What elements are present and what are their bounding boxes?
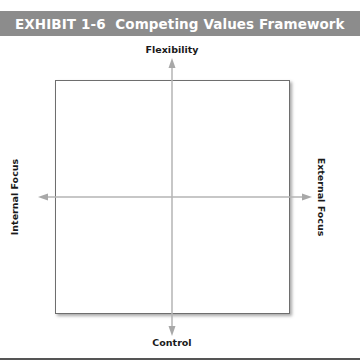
axis-label-control: Control: [152, 337, 191, 348]
bottom-divider: [0, 358, 360, 360]
arrow-right-icon: [302, 194, 312, 201]
axis-label-flexibility: Flexibility: [146, 44, 199, 55]
axis-label-external-focus: External Focus: [316, 158, 327, 237]
arrow-up-icon: [169, 58, 176, 68]
arrow-left-icon: [38, 194, 48, 201]
axis-label-internal-focus: Internal Focus: [9, 159, 20, 235]
arrow-down-icon: [169, 326, 176, 336]
